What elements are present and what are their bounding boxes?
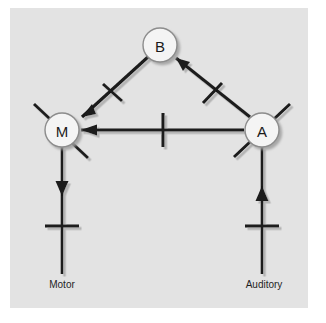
synapse-tick-icon	[103, 84, 122, 101]
auditory-label: Auditory	[246, 279, 283, 290]
node-m-label: M	[56, 123, 69, 140]
node-b[interactable]: B	[143, 28, 177, 62]
dendrite-spoke-icon	[234, 142, 250, 157]
edge-layer	[34, 57, 290, 274]
motor-label: Motor	[49, 279, 75, 290]
edge-auditory-to-a	[245, 147, 279, 274]
circuit-diagram: B M A Motor Auditory	[0, 0, 326, 323]
dendrite-spoke-icon	[274, 104, 290, 119]
figure-root: B M A Motor Auditory	[0, 0, 326, 323]
arrowhead-icon	[56, 181, 69, 196]
edge-a-to-m	[81, 113, 244, 147]
edge-a-to-b	[176, 58, 250, 117]
node-a-label: A	[257, 123, 267, 140]
dendrite-spoke-icon	[34, 104, 50, 119]
dendrite-spoke-icon	[72, 143, 88, 158]
node-a[interactable]: A	[245, 113, 279, 147]
edge-b-to-m	[82, 57, 148, 117]
edge-m-to-motor	[45, 147, 79, 274]
arrowhead-icon	[256, 186, 269, 201]
node-m[interactable]: M	[45, 113, 79, 147]
arrowhead-icon	[81, 125, 97, 136]
node-b-label: B	[155, 38, 165, 55]
